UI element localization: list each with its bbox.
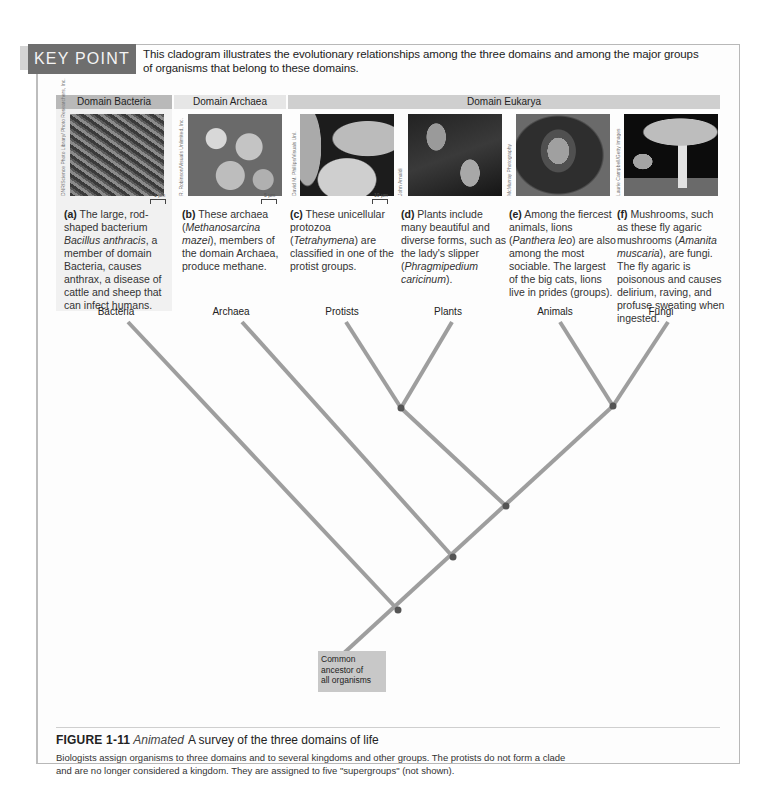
ancestor-line-3: all organisms xyxy=(321,675,386,686)
figure-title: FIGURE 1-11AnimatedA survey of the three… xyxy=(56,733,379,747)
common-ancestor-box: Common ancestor of all organisms xyxy=(318,651,386,692)
figure-number: FIGURE 1-11 xyxy=(56,733,130,747)
branch-bacteria xyxy=(128,322,398,610)
branch-plants xyxy=(401,322,452,408)
branch-fungi xyxy=(613,322,668,406)
node-eukarya-internal xyxy=(503,503,510,510)
node-archaea-eukarya xyxy=(450,554,457,561)
branch-protist-plant-clade xyxy=(401,408,506,506)
node-protists-plants xyxy=(398,405,405,412)
main-trunk xyxy=(344,406,613,653)
node-animals-fungi xyxy=(610,403,617,410)
caption-divider xyxy=(56,727,720,728)
ancestor-line-1: Common xyxy=(321,654,386,665)
figure-title-text: A survey of the three domains of life xyxy=(188,733,379,747)
figure-animated-tag[interactable]: Animated xyxy=(133,733,184,747)
ancestor-line-2: ancestor of xyxy=(321,665,386,676)
cladogram-tree xyxy=(0,0,778,793)
branch-protists xyxy=(346,322,401,408)
branch-archaea xyxy=(242,322,453,557)
figure-description: Biologists assign organisms to three dom… xyxy=(56,751,576,777)
node-root-split xyxy=(395,607,402,614)
branch-animals xyxy=(560,322,613,406)
